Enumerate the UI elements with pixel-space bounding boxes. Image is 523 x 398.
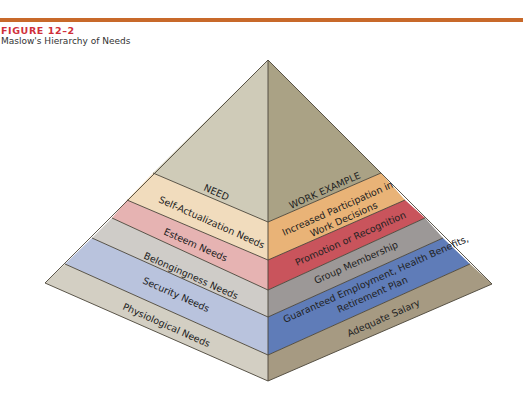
maslow-pyramid: NEED Self-Actualization Needs Esteem Nee…: [0, 0, 523, 398]
